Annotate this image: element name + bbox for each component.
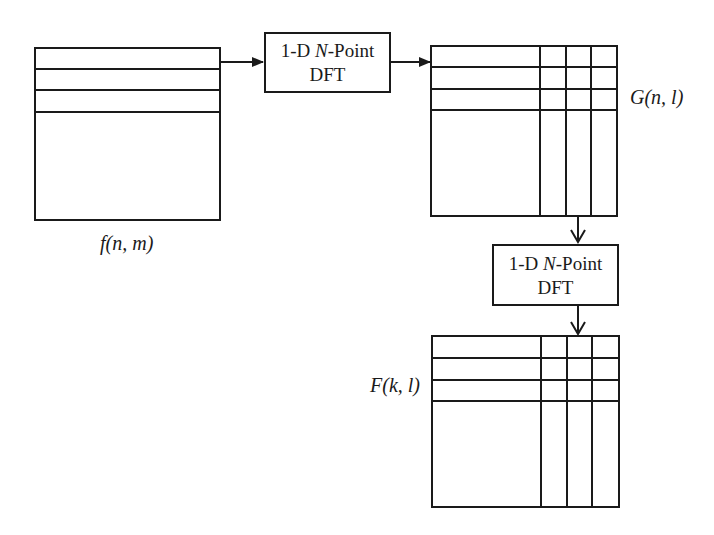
- dft-block-1-line1: 1-D N-Point: [281, 40, 375, 61]
- output-matrix: [432, 336, 619, 507]
- input-matrix: [35, 48, 220, 220]
- dft-diagram: f(n, m) 1-D N-Point DFT G(n, l) 1-D N-Po…: [0, 0, 714, 535]
- intermediate-matrix-border: [431, 46, 617, 216]
- arrow-to-output: [571, 305, 585, 334]
- input-matrix-border: [35, 48, 220, 220]
- output-matrix-label: F(k, l): [369, 374, 420, 397]
- dft-block-2-line1: 1-D N-Point: [509, 253, 603, 274]
- dft-block-1-line2: DFT: [310, 64, 346, 85]
- dft-block-2-line2: DFT: [538, 277, 574, 298]
- intermediate-matrix: [431, 46, 617, 216]
- arrow-to-dft-2: [571, 216, 585, 242]
- output-matrix-border: [432, 336, 619, 507]
- dft-block-2: 1-D N-Point DFT: [493, 245, 618, 305]
- dft-block-1: 1-D N-Point DFT: [265, 33, 390, 92]
- intermediate-matrix-label: G(n, l): [630, 86, 684, 109]
- input-matrix-label: f(n, m): [100, 232, 154, 255]
